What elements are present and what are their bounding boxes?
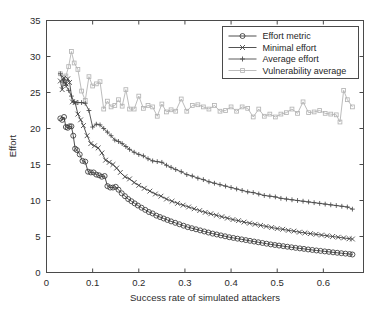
y-tick-label: 20 bbox=[30, 123, 41, 134]
y-tick-label: 10 bbox=[30, 195, 41, 206]
y-tick-label: 15 bbox=[30, 159, 41, 170]
x-tick-label: 0 bbox=[44, 277, 49, 288]
legend-label: Average effort bbox=[263, 54, 320, 64]
x-tick-label: 0.6 bbox=[317, 277, 330, 288]
x-tick-label: 0.2 bbox=[132, 277, 145, 288]
legend-label: Effort metric bbox=[263, 31, 312, 41]
figure-container: 05101520253035 00.10.20.30.40.50.6 Effor… bbox=[0, 0, 377, 313]
y-tick-label: 35 bbox=[30, 15, 41, 26]
legend-label: Vulnerability average bbox=[263, 66, 347, 76]
x-axis-title: Success rate of simulated attackers bbox=[130, 292, 280, 303]
x-tick-label: 0.1 bbox=[86, 277, 99, 288]
legend-label: Minimal effort bbox=[263, 43, 317, 53]
y-tick-label: 0 bbox=[35, 267, 40, 278]
effort-vs-success-rate-chart: 05101520253035 00.10.20.30.40.50.6 Effor… bbox=[0, 0, 377, 313]
legend: Effort metricMinimal effortAverage effor… bbox=[223, 27, 359, 79]
x-tick-label: 0.5 bbox=[271, 277, 284, 288]
y-tick-label: 30 bbox=[30, 51, 41, 62]
x-tick-label: 0.4 bbox=[224, 277, 237, 288]
y-tick-label: 25 bbox=[30, 87, 41, 98]
x-tick-label: 0.3 bbox=[178, 277, 191, 288]
y-axis-title: Effort bbox=[7, 134, 18, 157]
y-tick-label: 5 bbox=[35, 231, 40, 242]
